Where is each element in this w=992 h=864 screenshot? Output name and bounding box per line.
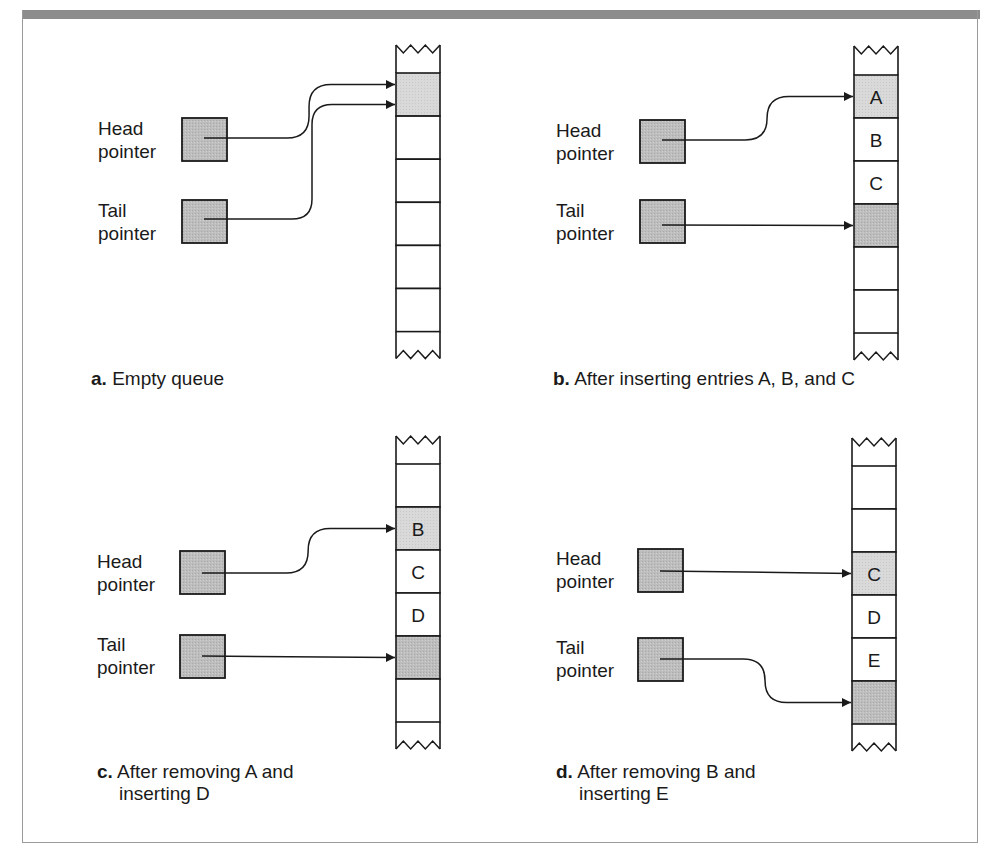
caption-letter: c.: [97, 761, 113, 782]
queue-cell: [854, 247, 898, 290]
head-label-line1: Head: [556, 547, 614, 570]
queue-cell: [396, 159, 440, 202]
head-label-line1: Head: [98, 117, 156, 140]
caption-d: d. After removing B and inserting E: [556, 761, 756, 805]
tail-label-line2: pointer: [556, 659, 614, 682]
queue-cell: [852, 466, 896, 509]
tail-pointer-arrow: [204, 105, 395, 219]
queue-panel-d: CDE: [638, 438, 896, 751]
caption-text-line2: inserting D: [97, 783, 293, 805]
queue-panel-c: BCD: [180, 436, 440, 749]
head-pointer-label: Head pointer: [556, 119, 614, 165]
head-pointer-box: [640, 120, 685, 163]
caption-text: Empty queue: [112, 368, 224, 389]
queue-cell: [396, 679, 440, 722]
caption-a: a. Empty queue: [91, 368, 224, 390]
queue-cell-entry: D: [867, 607, 881, 628]
tail-label-line1: Tail: [98, 199, 156, 222]
head-pointer-arrow: [204, 85, 395, 138]
head-pointer-label: Head pointer: [97, 550, 155, 596]
tail-pointer-box: [640, 200, 685, 243]
head-pointer-box: [182, 118, 227, 161]
queue-panel-b: ABC: [640, 46, 898, 360]
queue-cell: [396, 73, 440, 116]
head-label-line2: pointer: [556, 570, 614, 593]
zigzag-break-bottom: [854, 352, 898, 360]
zigzag-break-bottom: [852, 743, 896, 751]
tail-pointer-arrow: [660, 659, 851, 703]
queue-cell: [852, 681, 896, 724]
queue-cell: [396, 245, 440, 288]
tail-label-line2: pointer: [97, 656, 155, 679]
caption-letter: b.: [553, 368, 570, 389]
tail-label-line1: Tail: [556, 636, 614, 659]
queue-cell: [396, 202, 440, 245]
head-pointer-arrow: [202, 529, 395, 574]
tail-pointer-label: Tail pointer: [97, 633, 155, 679]
queue-cell-entry: C: [411, 562, 425, 583]
tail-label-line1: Tail: [556, 199, 614, 222]
tail-pointer-arrow: [662, 225, 853, 226]
head-pointer-arrow: [662, 97, 853, 141]
tail-pointer-label: Tail pointer: [556, 199, 614, 245]
tail-pointer-label: Tail pointer: [556, 636, 614, 682]
head-pointer-label: Head pointer: [98, 117, 156, 163]
tail-label-line2: pointer: [98, 222, 156, 245]
queue-cell: [854, 290, 898, 333]
zigzag-break-top: [396, 436, 440, 444]
queue-cell: [854, 204, 898, 247]
caption-text-line1: After removing A and: [117, 761, 293, 782]
zigzag-break-bottom: [396, 351, 440, 359]
caption-letter: a.: [91, 368, 107, 389]
head-pointer-arrow: [660, 571, 851, 574]
queue-cell: [852, 509, 896, 552]
tail-label-line2: pointer: [556, 222, 614, 245]
head-label-line1: Head: [556, 119, 614, 142]
zigzag-break-top: [852, 438, 896, 446]
tail-pointer-box: [182, 200, 227, 243]
queue-cell-entry: B: [870, 130, 883, 151]
head-label-line2: pointer: [97, 573, 155, 596]
caption-text-line2: inserting E: [556, 783, 756, 805]
head-pointer-label: Head pointer: [556, 547, 614, 593]
queue-cell-entry: C: [869, 173, 883, 194]
queue-cell-entry: A: [870, 87, 883, 108]
queue-cell-entry: C: [867, 564, 881, 585]
zigzag-break-top: [396, 45, 440, 53]
zigzag-break-bottom: [396, 741, 440, 749]
caption-letter: d.: [556, 761, 573, 782]
tail-pointer-label: Tail pointer: [98, 199, 156, 245]
caption-text: After inserting entries A, B, and C: [574, 368, 855, 389]
zigzag-break-top: [854, 46, 898, 54]
queue-cell: [396, 636, 440, 679]
caption-c: c. After removing A and inserting D: [97, 761, 293, 805]
queue-cell: [396, 116, 440, 159]
tail-label-line1: Tail: [97, 633, 155, 656]
queue-cell-entry: B: [412, 519, 425, 540]
queue-cell-entry: D: [411, 605, 425, 626]
caption-text-line1: After removing B and: [577, 761, 755, 782]
queue-diagram-figure: ABCBCDCDE Head pointer Tail pointer a. E…: [0, 0, 992, 864]
queue-cell: [396, 289, 440, 332]
head-label-line2: pointer: [98, 140, 156, 163]
queue-cell: [396, 464, 440, 507]
queue-panel-a: [182, 45, 440, 359]
tail-pointer-arrow: [202, 656, 395, 658]
queue-cell-entry: E: [868, 650, 881, 671]
head-label-line2: pointer: [556, 142, 614, 165]
head-label-line1: Head: [97, 550, 155, 573]
caption-b: b. After inserting entries A, B, and C: [553, 368, 855, 390]
